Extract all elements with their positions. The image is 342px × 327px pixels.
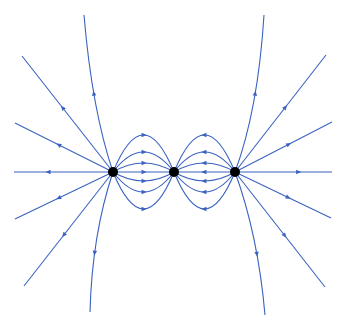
arrow-icon [254,251,258,256]
arrow-icon [92,91,96,96]
field-line-right-down-steep [235,172,265,315]
field-line-left-down-mid [24,172,113,286]
arrow-icon [142,133,147,137]
arrow-icon [296,170,301,174]
arrow-icon [142,170,147,174]
field-line-right-down-mid [235,172,325,287]
arrow-icon [45,170,50,174]
field-line-right-up-mid [235,55,326,172]
outer-field-lines [14,15,332,315]
arrow-icon [201,150,206,154]
field-line-right-up-shallow [235,122,332,172]
charge-center-negative [169,167,179,177]
charge-left-positive [108,167,118,177]
arrow-icon [201,133,206,137]
arrow-icon [253,91,257,96]
field-line-left-up-shallow [15,123,113,172]
field-loop [174,172,235,209]
arrow-icon [93,250,97,255]
field-loop [174,135,235,172]
field-line-left-down-steep [90,172,113,312]
field-line-left-up-steep [84,15,113,172]
field-loop [113,135,174,172]
arrow-icon [201,207,206,211]
arrow-icon [142,161,147,165]
arrow-icon [142,190,147,194]
field-line-left-down-shallow [15,172,113,219]
field-line-diagram: Electric field lines of three point char… [0,0,342,327]
arrow-icon [142,207,147,211]
field-line-right-up-steep [235,15,264,172]
arrow-icon [142,179,147,183]
arrow-icon [201,161,206,165]
arrow-icon [201,190,206,194]
arrow-icon [142,150,147,154]
field-loop [113,172,174,209]
field-line-left-up-mid [22,56,113,172]
charge-right-positive [230,167,240,177]
arrow-icon [201,179,206,183]
arrow-icon [201,170,206,174]
field-line-right-down-shallow [235,172,331,218]
